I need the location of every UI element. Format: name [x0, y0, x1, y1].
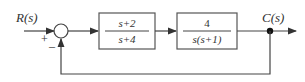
minus-sign: – — [48, 39, 56, 53]
input-label: R(s) — [15, 10, 38, 25]
block-2-denominator: s(s+1) — [193, 33, 222, 46]
summing-junction — [54, 24, 68, 38]
output-label: C(s) — [262, 10, 284, 25]
block-1-numerator: s+2 — [118, 17, 136, 29]
feedback-path — [61, 31, 270, 74]
plus-sign: + — [41, 32, 48, 46]
block-2-numerator: 4 — [204, 17, 210, 29]
block-diagram: R(s) + – s+2 s+4 4 s(s+1) C(s) — [0, 0, 305, 82]
block-1-denominator: s+4 — [118, 33, 136, 45]
